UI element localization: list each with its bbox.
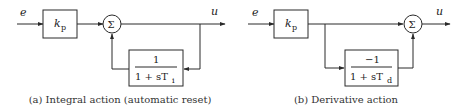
output-label-u: u <box>211 5 218 18</box>
feedback-denominator: 1 + sT <box>135 71 168 82</box>
block-diagrams: e k p Σ u 1 1 + sT i (a) Integral action… <box>0 0 463 112</box>
sigma-symbol: Σ <box>409 19 416 30</box>
gain-label-k: k <box>285 17 292 30</box>
gain-label-k: k <box>54 17 61 30</box>
gain-label-sub-p: p <box>61 23 66 32</box>
derivative-denominator-sub: d <box>387 76 392 85</box>
derivative-denominator: 1 + sT <box>350 71 383 82</box>
feedback-denominator-sub: i <box>172 76 175 85</box>
gain-label-sub-p: p <box>292 23 297 32</box>
branch-path-in <box>325 24 344 68</box>
diagram-b-derivative-action: e k p −1 1 + sT d Σ u (b) Derivative act… <box>248 5 450 105</box>
input-label-e: e <box>252 6 259 19</box>
output-label-u: u <box>436 5 443 18</box>
derivative-numerator: −1 <box>365 54 380 65</box>
feedback-path-out <box>112 34 129 69</box>
branch-path-out <box>398 34 413 68</box>
input-label-e: e <box>20 6 27 19</box>
diagram-a-integral-action: e k p Σ u 1 1 + sT i (a) Integral action… <box>17 5 225 105</box>
feedback-numerator: 1 <box>153 54 159 65</box>
caption-a: (a) Integral action (automatic reset) <box>29 94 212 105</box>
feedback-path-in <box>184 24 200 69</box>
caption-b: (b) Derivative action <box>294 94 399 105</box>
sigma-symbol: Σ <box>108 19 115 30</box>
